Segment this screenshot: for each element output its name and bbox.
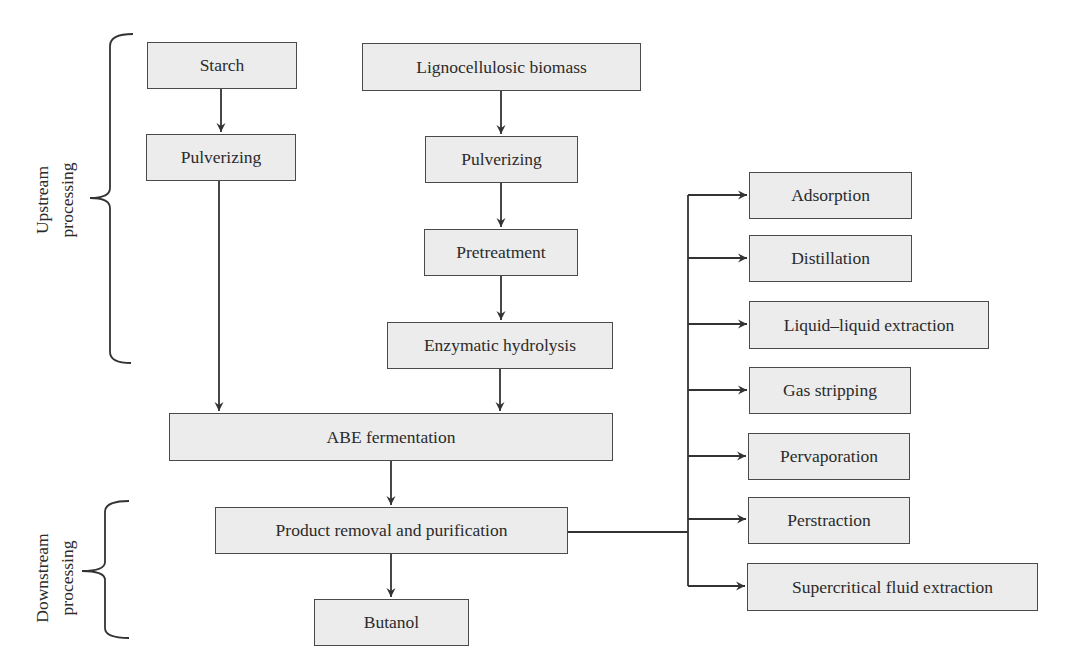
method-liquid-liquid-extraction: Liquid–liquid extraction: [749, 301, 989, 349]
method-supercritical-fluid-extraction: Supercritical fluid extraction: [747, 563, 1038, 611]
downstream-brace: [82, 501, 129, 638]
node-butanol: Butanol: [314, 599, 469, 646]
process-flow-diagram: Upstream processing Downstream processin…: [0, 0, 1068, 671]
node-product-removal: Product removal and purification: [215, 507, 568, 554]
downstream-label-line1: Downstream: [30, 513, 55, 643]
node-pulverizing-ligno: Pulverizing: [425, 136, 578, 183]
node-enzymatic-hydrolysis: Enzymatic hydrolysis: [387, 322, 613, 369]
node-lignocellulosic-biomass: Lignocellulosic biomass: [362, 43, 641, 91]
node-starch: Starch: [147, 42, 297, 89]
node-pulverizing-starch: Pulverizing: [146, 134, 296, 181]
upstream-label: Upstream processing: [30, 140, 80, 260]
upstream-brace: [90, 34, 133, 363]
method-perstraction: Perstraction: [748, 497, 910, 544]
upstream-label-line1: Upstream: [30, 140, 55, 260]
method-pervaporation: Pervaporation: [748, 433, 910, 480]
node-abe-fermentation: ABE fermentation: [169, 413, 613, 461]
method-adsorption: Adsorption: [749, 172, 912, 219]
downstream-label: Downstream processing: [30, 513, 80, 643]
upstream-label-line2: processing: [55, 140, 80, 260]
method-distillation: Distillation: [749, 235, 912, 282]
downstream-label-line2: processing: [55, 513, 80, 643]
method-gas-stripping: Gas stripping: [749, 367, 911, 414]
node-pretreatment: Pretreatment: [424, 229, 578, 276]
